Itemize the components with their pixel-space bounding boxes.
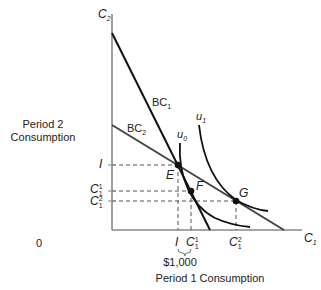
bc1-label: BC1	[152, 96, 171, 113]
intertemporal-choice-diagram	[0, 0, 321, 290]
brace-label: $1,000	[150, 256, 210, 269]
x-tick-c1-1: C11	[186, 236, 199, 250]
x-axis-title: Period 1 Consumption	[140, 272, 280, 285]
y-axis-label: C2	[98, 8, 111, 25]
u0-label: u0	[177, 128, 187, 145]
brace	[178, 249, 191, 256]
budget-line-bc2	[112, 125, 284, 230]
point-g-label: G	[239, 187, 248, 200]
point-e-label: E	[166, 169, 174, 182]
u1-label: u1	[196, 110, 206, 127]
point-f-label: F	[196, 180, 203, 193]
indifference-curve-u0	[180, 143, 250, 227]
y-axis-title: Period 2 Consumption	[8, 118, 78, 144]
point-f	[188, 188, 195, 195]
y-tick-c1-2: C21	[90, 195, 103, 209]
origin-label: 0	[36, 237, 42, 250]
x-tick-income: I	[175, 236, 178, 249]
point-e	[175, 162, 182, 169]
bc2-label: BC2	[127, 122, 146, 139]
x-tick-c1-2: C21	[229, 236, 242, 250]
indifference-curve-u1	[199, 125, 268, 211]
x-axis-label: C1	[304, 232, 317, 249]
y-tick-income: I	[99, 158, 102, 171]
